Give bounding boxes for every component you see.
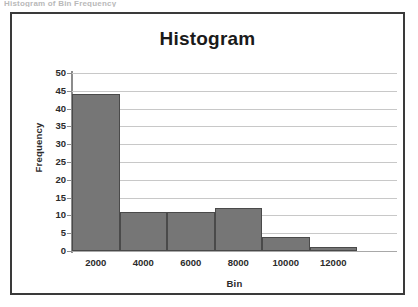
x-axis-tick-labels: 20004000600080001000012000 bbox=[72, 257, 397, 273]
bar bbox=[310, 247, 358, 251]
y-axis-tick bbox=[67, 215, 72, 216]
y-axis-tick-label: 50 bbox=[44, 68, 66, 78]
gridline bbox=[72, 126, 397, 127]
y-axis-title: Frequency bbox=[33, 108, 44, 188]
bar bbox=[167, 212, 215, 251]
bar bbox=[262, 237, 310, 251]
y-axis-tick bbox=[67, 91, 72, 92]
y-axis-tick bbox=[67, 198, 72, 199]
bar bbox=[215, 208, 263, 251]
y-axis-tick bbox=[67, 251, 72, 252]
y-axis-tick bbox=[67, 126, 72, 127]
y-axis-tick bbox=[67, 180, 72, 181]
y-axis-tick bbox=[67, 73, 72, 74]
scan-artifact-text: Histogram of Bin Frequency bbox=[4, 0, 304, 7]
gridline bbox=[72, 198, 397, 199]
gridline bbox=[72, 73, 397, 74]
bar bbox=[72, 94, 120, 251]
y-axis-tick-label: 40 bbox=[44, 104, 66, 114]
y-axis-tick-label: 35 bbox=[44, 121, 66, 131]
y-axis-tick bbox=[67, 233, 72, 234]
gridline bbox=[72, 162, 397, 163]
gridline bbox=[72, 251, 397, 252]
chart-title: Histogram bbox=[12, 28, 403, 50]
y-axis-tick-label: 25 bbox=[44, 157, 66, 167]
y-axis-tick-label: 15 bbox=[44, 193, 66, 203]
bar bbox=[120, 212, 168, 251]
x-axis-tick-label: 12000 bbox=[303, 257, 363, 268]
y-axis-tick bbox=[67, 162, 72, 163]
y-axis-tick-labels: 05101520253035404550 bbox=[40, 14, 66, 307]
y-axis-tick-label: 20 bbox=[44, 175, 66, 185]
y-axis-tick bbox=[67, 109, 72, 110]
gridline bbox=[72, 144, 397, 145]
y-axis-tick-label: 30 bbox=[44, 139, 66, 149]
chart-frame: Histogram 05101520253035404550 Frequency… bbox=[10, 12, 405, 295]
y-axis-tick-label: 45 bbox=[44, 86, 66, 96]
gridline bbox=[72, 180, 397, 181]
y-axis-tick-label: 0 bbox=[44, 246, 66, 256]
y-axis-tick-label: 10 bbox=[44, 210, 66, 220]
y-axis-tick-label: 5 bbox=[44, 228, 66, 238]
plot-area bbox=[72, 73, 397, 251]
x-axis-title: Bin bbox=[72, 278, 397, 289]
y-axis-tick bbox=[67, 144, 72, 145]
gridline bbox=[72, 91, 397, 92]
gridline bbox=[72, 109, 397, 110]
